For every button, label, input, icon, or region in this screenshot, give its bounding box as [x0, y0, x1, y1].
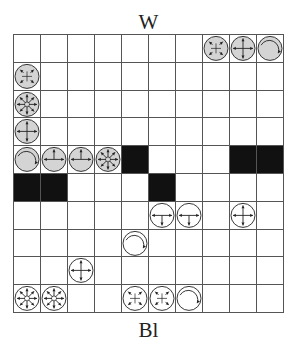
board-cell[interactable] — [68, 63, 95, 91]
board-cell[interactable] — [203, 63, 230, 91]
board-cell-w-piece[interactable] — [41, 146, 68, 174]
board-cell-w-piece[interactable] — [230, 35, 257, 63]
blocked-cell[interactable] — [122, 146, 149, 174]
blocked-cell[interactable] — [14, 174, 41, 202]
board-cell[interactable] — [176, 63, 203, 91]
blocked-cell[interactable] — [257, 146, 284, 174]
board-cell[interactable] — [203, 257, 230, 285]
board-cell[interactable] — [95, 174, 122, 202]
board-cell-w-piece[interactable] — [95, 146, 122, 174]
board-cell[interactable] — [41, 230, 68, 258]
board-cell[interactable] — [149, 118, 176, 146]
board-cell-bl-piece[interactable] — [14, 285, 41, 313]
board-cell[interactable] — [122, 63, 149, 91]
diagonal-piece-icon[interactable] — [14, 63, 40, 90]
board-cell[interactable] — [149, 146, 176, 174]
board-cell-bl-piece[interactable] — [176, 202, 203, 230]
board-cell[interactable] — [176, 230, 203, 258]
rotate-piece-icon[interactable] — [14, 146, 40, 173]
board-cell-bl-piece[interactable] — [149, 285, 176, 313]
board-cell-w-piece[interactable] — [14, 146, 41, 174]
board-cell[interactable] — [122, 118, 149, 146]
board-cell-bl-piece[interactable] — [68, 257, 95, 285]
board-cell[interactable] — [95, 35, 122, 63]
board-cell-w-piece[interactable] — [257, 35, 284, 63]
board-cell[interactable] — [95, 118, 122, 146]
board-cell[interactable] — [257, 202, 284, 230]
rotate-piece-icon[interactable] — [176, 285, 202, 312]
board-cell[interactable] — [230, 118, 257, 146]
board-cell[interactable] — [68, 91, 95, 119]
board-cell[interactable] — [68, 174, 95, 202]
board-cell[interactable] — [203, 202, 230, 230]
board-cell[interactable] — [122, 35, 149, 63]
board-cell[interactable] — [257, 174, 284, 202]
board-cell[interactable] — [95, 63, 122, 91]
board-cell[interactable] — [68, 118, 95, 146]
four-way-piece-icon[interactable] — [14, 118, 40, 145]
board-cell[interactable] — [257, 63, 284, 91]
eight-way-piece-icon[interactable] — [95, 146, 121, 173]
four-way-piece-icon[interactable] — [230, 35, 256, 62]
board-cell-bl-piece[interactable] — [176, 285, 203, 313]
board-cell[interactable] — [257, 230, 284, 258]
board-cell[interactable] — [230, 174, 257, 202]
rotate-piece-icon[interactable] — [257, 35, 283, 62]
board-cell[interactable] — [257, 118, 284, 146]
board-cell[interactable] — [122, 174, 149, 202]
board-cell[interactable] — [230, 63, 257, 91]
board-cell-bl-piece[interactable] — [122, 230, 149, 258]
board-cell[interactable] — [230, 285, 257, 313]
rotate-piece-icon[interactable] — [122, 230, 148, 257]
board-cell[interactable] — [41, 257, 68, 285]
board-cell-bl-piece[interactable] — [122, 285, 149, 313]
diagonal-piece-icon[interactable] — [149, 285, 175, 312]
board-cell-bl-piece[interactable] — [149, 202, 176, 230]
board-cell[interactable] — [230, 230, 257, 258]
board-cell[interactable] — [149, 91, 176, 119]
board-cell[interactable] — [122, 202, 149, 230]
four-way-piece-icon[interactable] — [230, 202, 256, 229]
board-cell-w-piece[interactable] — [14, 91, 41, 119]
t-down-piece-icon[interactable] — [176, 202, 202, 229]
board-cell[interactable] — [257, 91, 284, 119]
board-cell[interactable] — [176, 146, 203, 174]
blocked-cell[interactable] — [230, 146, 257, 174]
board-cell[interactable] — [230, 257, 257, 285]
board-cell[interactable] — [14, 35, 41, 63]
eight-way-piece-icon[interactable] — [14, 91, 40, 118]
t-up-piece-icon[interactable] — [41, 146, 67, 173]
board-cell[interactable] — [122, 91, 149, 119]
board-cell-bl-piece[interactable] — [230, 202, 257, 230]
eight-way-piece-icon[interactable] — [14, 285, 40, 312]
diagonal-piece-icon[interactable] — [122, 285, 148, 312]
board-cell[interactable] — [68, 35, 95, 63]
board-cell[interactable] — [149, 230, 176, 258]
blocked-cell[interactable] — [41, 174, 68, 202]
board-cell[interactable] — [176, 35, 203, 63]
board-cell[interactable] — [14, 257, 41, 285]
board-cell[interactable] — [68, 285, 95, 313]
board-cell[interactable] — [176, 118, 203, 146]
board-cell-w-piece[interactable] — [68, 146, 95, 174]
board-cell[interactable] — [257, 285, 284, 313]
eight-way-piece-icon[interactable] — [41, 285, 67, 312]
four-way-piece-icon[interactable] — [68, 257, 94, 284]
board-cell[interactable] — [95, 230, 122, 258]
board-cell[interactable] — [95, 91, 122, 119]
board-cell-w-piece[interactable] — [203, 35, 230, 63]
t-up-piece-icon[interactable] — [68, 146, 94, 173]
board-cell-w-piece[interactable] — [14, 118, 41, 146]
board-cell[interactable] — [41, 35, 68, 63]
board-cell[interactable] — [176, 91, 203, 119]
t-down-piece-icon[interactable] — [149, 202, 175, 229]
board-cell[interactable] — [203, 285, 230, 313]
board-cell[interactable] — [176, 174, 203, 202]
board-cell[interactable] — [203, 230, 230, 258]
board-cell[interactable] — [149, 35, 176, 63]
board-cell[interactable] — [203, 91, 230, 119]
board-cell[interactable] — [14, 202, 41, 230]
board-cell[interactable] — [122, 257, 149, 285]
diagonal-piece-icon[interactable] — [203, 35, 229, 62]
board-cell[interactable] — [230, 91, 257, 119]
